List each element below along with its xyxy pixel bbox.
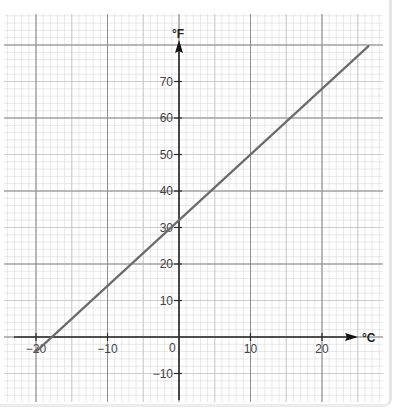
y-tick-label: −10 xyxy=(153,367,174,381)
y-tick-label: 60 xyxy=(160,111,174,125)
y-tick-label: 20 xyxy=(160,257,174,271)
y-axis-title: °F xyxy=(172,27,184,41)
y-tick-label: 40 xyxy=(160,184,174,198)
y-tick-label: 70 xyxy=(160,75,174,89)
x-axis-title: °C xyxy=(362,331,376,345)
y-tick-label: 50 xyxy=(160,148,174,162)
origin-label: 0 xyxy=(169,341,176,355)
conversion-chart: −20−101020 −1010203040506070 °C °F 0 xyxy=(0,0,395,409)
x-tick-label: 10 xyxy=(244,342,258,356)
x-tick-label: 20 xyxy=(315,342,329,356)
y-tick-label: 10 xyxy=(160,294,174,308)
x-tick-label: −10 xyxy=(97,342,118,356)
